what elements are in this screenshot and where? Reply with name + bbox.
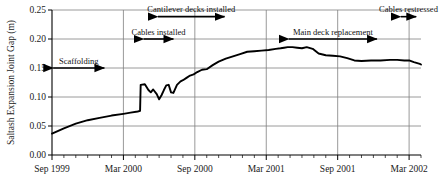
x-tick-label: Mar 2000 bbox=[105, 164, 142, 174]
data-line-saltash-gap bbox=[52, 47, 421, 133]
x-tick-label: Sep 1999 bbox=[34, 164, 70, 174]
y-tick-label: 0.20 bbox=[29, 34, 46, 44]
y-axis-title: Saltash Expansion Joint Gap (m) bbox=[6, 20, 17, 145]
y-tick-label: 0.15 bbox=[29, 63, 46, 73]
x-tick-label: Mar 2002 bbox=[390, 164, 427, 174]
x-tick-label: Mar 2001 bbox=[248, 164, 285, 174]
y-tick-label: 0.10 bbox=[29, 92, 46, 102]
annotation-label-4: Cables restressed bbox=[379, 4, 439, 14]
annotation-label-2: Cantilever decks installed bbox=[147, 4, 236, 14]
chart-svg: 0.000.050.100.150.200.25Sep 1999Mar 2000… bbox=[0, 0, 443, 184]
y-tick-label: 0.00 bbox=[29, 150, 46, 160]
y-tick-label: 0.05 bbox=[29, 121, 46, 131]
y-tick-label: 0.25 bbox=[29, 5, 46, 15]
x-tick-label: Sep 2000 bbox=[177, 164, 213, 174]
annotation-label-0: Scaffolding bbox=[59, 56, 99, 66]
x-tick-label: Sep 2001 bbox=[320, 164, 356, 174]
annotation-label-3: Main deck replacement bbox=[293, 27, 373, 37]
annotation-label-1: Cables installed bbox=[132, 27, 187, 37]
chart-container: 0.000.050.100.150.200.25Sep 1999Mar 2000… bbox=[0, 0, 443, 184]
